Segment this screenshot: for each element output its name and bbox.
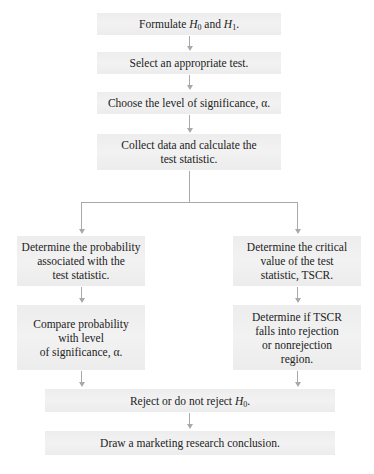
arrow-down-icon bbox=[79, 382, 85, 387]
step-determine-tscr-region-label: Determine if TSCR falls into rejection o… bbox=[252, 310, 342, 366]
step-formulate-hypotheses: Formulate H0 and H1. bbox=[97, 13, 281, 35]
step-collect-data: Collect data and calculate the test stat… bbox=[97, 134, 281, 170]
step-determine-tscr-region: Determine if TSCR falls into rejection o… bbox=[233, 305, 361, 370]
arrow-down-icon bbox=[79, 229, 85, 234]
step-determine-critical-value: Determine the critical value of the test… bbox=[233, 236, 361, 286]
step-reject-decision-label: Reject or do not reject H0. bbox=[130, 394, 250, 408]
arrow-down-icon bbox=[295, 229, 301, 234]
connector-left-branch bbox=[81, 202, 82, 230]
step-formulate-label: Formulate H0 and H1. bbox=[139, 17, 239, 31]
connector-split-vertical bbox=[189, 171, 190, 202]
arrow-down-icon bbox=[187, 85, 193, 90]
step-choose-significance: Choose the level of significance, α. bbox=[97, 92, 281, 114]
step-determine-probability-label: Determine the probability associated wit… bbox=[22, 240, 141, 282]
step-choose-significance-label: Choose the level of significance, α. bbox=[108, 96, 270, 110]
connector-right-branch bbox=[297, 202, 298, 230]
step-select-test-label: Select an appropriate test. bbox=[130, 56, 249, 70]
step-compare-probability: Compare probability with level of signif… bbox=[17, 305, 145, 370]
step-reject-decision: Reject or do not reject H0. bbox=[45, 389, 335, 412]
step-draw-conclusion-label: Draw a marketing research conclusion. bbox=[100, 436, 280, 450]
connector-split-horizontal bbox=[81, 202, 298, 203]
step-collect-data-label: Collect data and calculate the test stat… bbox=[121, 138, 256, 166]
step-compare-probability-label: Compare probability with level of signif… bbox=[33, 317, 129, 359]
connector-3 bbox=[189, 115, 190, 129]
arrow-down-icon bbox=[295, 298, 301, 303]
step-determine-probability: Determine the probability associated wit… bbox=[17, 236, 145, 286]
step-select-test: Select an appropriate test. bbox=[97, 52, 281, 74]
arrow-down-icon bbox=[187, 128, 193, 133]
arrow-down-icon bbox=[187, 424, 193, 429]
arrow-down-icon bbox=[295, 382, 301, 387]
arrow-down-icon bbox=[79, 298, 85, 303]
arrow-down-icon bbox=[187, 46, 193, 51]
step-determine-critical-value-label: Determine the critical value of the test… bbox=[247, 240, 347, 282]
step-draw-conclusion: Draw a marketing research conclusion. bbox=[45, 431, 335, 455]
